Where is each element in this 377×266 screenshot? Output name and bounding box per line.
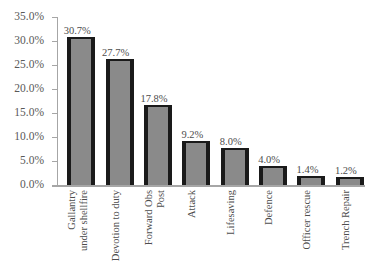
bar-slot: 30.7%	[58, 17, 96, 185]
x-axis-label: Trench Repair	[340, 190, 352, 250]
bar-slot: 8.0%	[212, 17, 250, 185]
x-axis-label-line: Post	[154, 190, 166, 208]
x-axis-label-line: Trench Repair	[340, 190, 352, 250]
bar[interactable]	[182, 141, 210, 185]
x-axis-label-slot: Devotion to duty	[97, 188, 135, 266]
x-axis-label: Devotion to duty	[110, 190, 122, 261]
x-axis-label-slot: Defence	[250, 188, 288, 266]
x-axis-label-line: Defence	[263, 190, 275, 225]
y-axis-tick-label: 0.0%	[20, 179, 44, 191]
y-axis-tick-label: 25.0%	[14, 59, 44, 71]
x-axis-label-slot: Attack	[173, 188, 211, 266]
x-axis-label: Defence	[263, 190, 275, 225]
bar[interactable]	[336, 177, 364, 185]
x-axis-label-line: under shellfire	[77, 190, 89, 251]
x-axis-label: Officer rescue	[302, 190, 314, 250]
bar[interactable]	[106, 59, 134, 185]
x-axis-label-line: Devotion to duty	[110, 190, 122, 261]
bar-chart: 35.0%30.0%25.0%20.0%15.0%10.0%5.0%0.0% 3…	[0, 0, 377, 266]
x-axis-label: Forward ObsPost	[142, 190, 165, 245]
y-axis-tick-label: 15.0%	[14, 107, 44, 119]
bar-value-label: 27.7%	[93, 47, 139, 58]
x-axis-label-slot: Gallantryunder shellfire	[58, 188, 96, 266]
x-axis-label-slot: Trench Repair	[327, 188, 365, 266]
x-axis-line	[52, 185, 365, 187]
bar-slot: 4.0%	[250, 17, 288, 185]
bar-slot: 9.2%	[173, 17, 211, 185]
bar-slot: 1.4%	[288, 17, 326, 185]
bar-value-label: 1.2%	[323, 165, 369, 176]
bar[interactable]	[221, 148, 249, 185]
x-axis-label-line: Officer rescue	[302, 190, 314, 250]
y-axis-tick-label: 20.0%	[14, 83, 44, 95]
bar-slot: 1.2%	[327, 17, 365, 185]
bar[interactable]	[259, 166, 287, 185]
x-axis-label-line: Forward Obs	[142, 190, 154, 245]
x-axis-label: Lifesaving	[225, 190, 237, 235]
y-axis-tick-label: 30.0%	[14, 35, 44, 47]
y-axis-tick-label: 10.0%	[14, 131, 44, 143]
y-axis-tick-label: 35.0%	[14, 11, 44, 23]
bar-value-label: 4.0%	[246, 154, 292, 165]
x-axis-label-slot: Officer rescue	[288, 188, 326, 266]
bar-slot: 27.7%	[97, 17, 135, 185]
bar[interactable]	[297, 176, 325, 185]
x-axis-label-line: Attack	[187, 190, 199, 218]
x-axis-label: Gallantryunder shellfire	[66, 190, 89, 251]
x-axis-label-slot: Forward ObsPost	[135, 188, 173, 266]
bar[interactable]	[144, 105, 172, 185]
x-axis-label-slot: Lifesaving	[212, 188, 250, 266]
y-axis-tick-label: 5.0%	[20, 155, 44, 167]
plot-area: 30.7%27.7%17.8%9.2%8.0%4.0%1.4%1.2%	[58, 17, 365, 185]
x-axis-label-line: Lifesaving	[225, 190, 237, 235]
y-axis: 35.0%30.0%25.0%20.0%15.0%10.0%5.0%0.0%	[0, 0, 52, 266]
bar-value-label: 17.8%	[131, 93, 177, 104]
x-axis-label: Attack	[187, 190, 199, 218]
bar-value-label: 8.0%	[208, 136, 254, 147]
bar-value-label: 30.7%	[54, 25, 100, 36]
x-axis-label-line: Gallantry	[66, 190, 78, 230]
x-axis-category-labels: Gallantryunder shellfireDevotion to duty…	[58, 188, 365, 266]
bar[interactable]	[67, 37, 95, 185]
bar-slot: 17.8%	[135, 17, 173, 185]
